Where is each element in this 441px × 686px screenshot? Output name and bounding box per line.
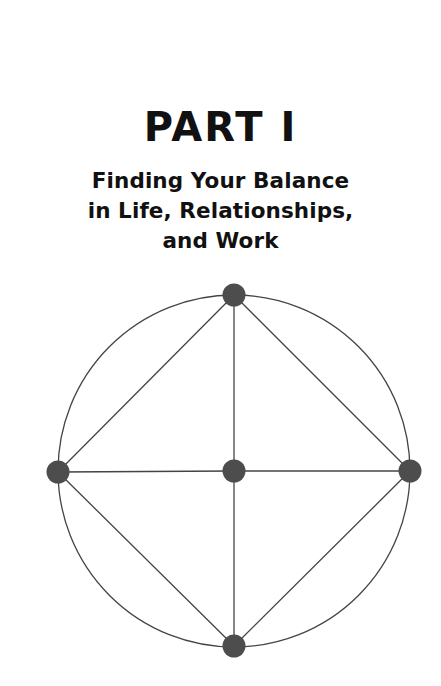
subtitle-line-2: in Life, Relationships, <box>0 196 441 226</box>
diagram-edge-right-bottom <box>234 471 410 646</box>
heading-block: PART I Finding Your Balance in Life, Rel… <box>0 104 441 256</box>
balance-wheel-svg <box>0 276 441 676</box>
balance-wheel-diagram <box>0 276 441 676</box>
diagram-edge-top-left <box>58 295 234 472</box>
page-title: PART I <box>0 104 441 150</box>
diagram-right-node <box>399 460 422 483</box>
diagram-edge-left-bottom <box>58 472 234 646</box>
diagram-edge-left-center <box>58 471 234 472</box>
diagram-bottom-node <box>223 635 246 658</box>
page-root: PART I Finding Your Balance in Life, Rel… <box>0 0 441 686</box>
diagram-center-node <box>223 460 246 483</box>
diagram-left-node <box>47 461 70 484</box>
subtitle-line-3: and Work <box>0 226 441 256</box>
subtitle-line-1: Finding Your Balance <box>0 166 441 196</box>
diagram-top-node <box>223 284 246 307</box>
page-subtitle: Finding Your Balance in Life, Relationsh… <box>0 166 441 256</box>
diagram-edge-top-right <box>234 295 410 471</box>
